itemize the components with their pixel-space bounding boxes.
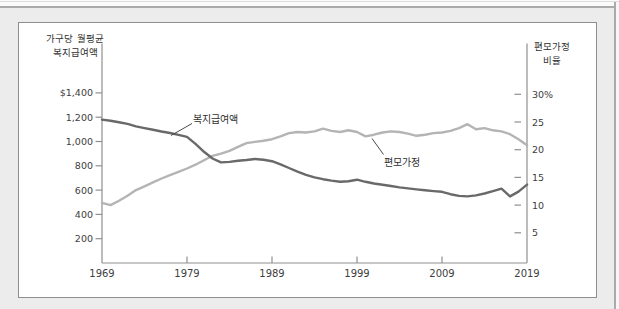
left-axis-tick-label: 200 <box>33 233 93 244</box>
benefit-label-leader <box>171 124 192 136</box>
x-axis-tick-label: 1969 <box>82 268 122 279</box>
left-axis-tick-label: 1,200 <box>33 112 93 123</box>
right-axis-tick-label: 5 <box>532 227 572 238</box>
x-axis-tick-label: 2019 <box>507 268 547 279</box>
right-axis-title-line1: 편모가정 <box>507 40 597 54</box>
single-mother-series-label: 편모가정 <box>384 154 420 169</box>
axes <box>102 44 527 264</box>
page-background: 가구당 월평균 복지급여액 편모가정 비율 2004006008001,0001… <box>0 0 619 309</box>
left-axis-title-line2: 복지급여액 <box>30 46 120 60</box>
right-axis-tick-label: 30% <box>532 89 572 100</box>
right-axis-tick-label: 10 <box>532 200 572 211</box>
x-axis-tick-label: 1999 <box>337 268 377 279</box>
right-axis-tick-label: 15 <box>532 172 572 183</box>
right-axis-tick-label: 20 <box>532 144 572 155</box>
left-axis-title-line1: 가구당 월평균 <box>30 32 120 46</box>
axis-tick-marks <box>96 93 522 263</box>
single-mother-line <box>102 124 527 205</box>
left-axis-title: 가구당 월평균 복지급여액 <box>30 32 120 60</box>
x-axis-tick-label: 1989 <box>252 268 292 279</box>
benefit-series-label: 복지급여액 <box>193 111 238 126</box>
right-axis-tick-label: 25 <box>532 117 572 128</box>
x-axis-tick-label: 1979 <box>167 268 207 279</box>
left-axis-tick-label: 600 <box>33 185 93 196</box>
right-axis-title-line2: 비율 <box>507 54 597 68</box>
left-axis-tick-label: $1,400 <box>33 87 93 98</box>
right-axis-title: 편모가정 비율 <box>507 40 597 68</box>
x-axis-tick-label: 2009 <box>422 268 462 279</box>
left-axis-tick-label: 1,000 <box>33 136 93 147</box>
single-mother-label-leader <box>372 139 384 155</box>
left-axis-tick-label: 800 <box>33 160 93 171</box>
left-axis-tick-label: 400 <box>33 209 93 220</box>
